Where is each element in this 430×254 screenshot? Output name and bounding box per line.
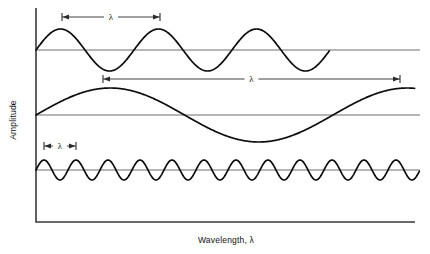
lambda-dimension-annotations: λλλ	[44, 12, 400, 151]
lambda-marker-top: λ	[62, 12, 160, 22]
lambda-marker-bottom: λ	[44, 141, 76, 151]
lambda-label: λ	[249, 74, 254, 84]
wave-baselines	[36, 50, 420, 170]
wavelength-amplitude-figure: Amplitude Wavelength, λ λλλ	[0, 0, 430, 254]
x-axis-label: Wavelength, λ	[198, 235, 255, 245]
wave-diagram-svg: Amplitude Wavelength, λ λλλ	[0, 0, 430, 254]
wave-curves	[36, 29, 419, 180]
lambda-label: λ	[58, 141, 63, 151]
y-axis-label: Amplitude	[8, 100, 18, 140]
lambda-marker-middle: λ	[103, 74, 400, 84]
lambda-label: λ	[109, 12, 114, 22]
